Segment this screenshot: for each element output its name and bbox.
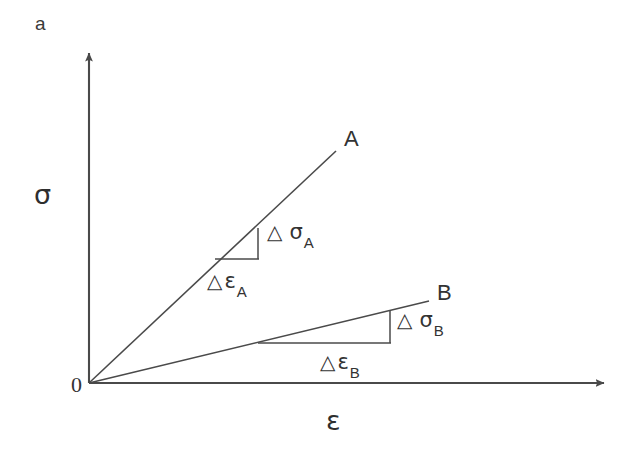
- delta-triangle-icon: △: [207, 269, 222, 293]
- delta-sigma-a-label: △σA: [267, 222, 313, 246]
- sigma-b-subscript: B: [434, 322, 444, 339]
- sigma-a-subscript: A: [304, 234, 314, 251]
- curve-label-b: B: [437, 282, 452, 304]
- curve-line-b: [89, 301, 429, 383]
- epsilon-symbol: ε: [224, 269, 235, 293]
- delta-epsilon-b-label: △εB: [320, 352, 359, 376]
- sigma-symbol: σ: [419, 308, 432, 332]
- delta-triangle-icon: △: [320, 350, 335, 374]
- delta-triangle-icon: △: [397, 308, 412, 332]
- x-axis-label: ε: [326, 407, 341, 434]
- epsilon-b-subscript: B: [350, 364, 360, 381]
- panel-label: a: [35, 14, 46, 33]
- sigma-symbol: σ: [289, 220, 302, 244]
- figure-canvas: [0, 0, 635, 453]
- curve-line-a: [89, 151, 336, 383]
- y-axis-label: σ: [34, 181, 51, 208]
- epsilon-symbol: ε: [337, 350, 348, 374]
- curve-label-a: A: [344, 128, 359, 150]
- delta-triangle-icon: △: [267, 220, 282, 244]
- delta-epsilon-a-label: △εA: [207, 271, 246, 295]
- epsilon-a-subscript: A: [237, 283, 247, 300]
- stress-strain-figure: a σ ε 0 A B △σA △εA △σB △εB: [0, 0, 635, 453]
- delta-sigma-b-label: △σB: [397, 310, 443, 334]
- origin-label: 0: [71, 374, 82, 396]
